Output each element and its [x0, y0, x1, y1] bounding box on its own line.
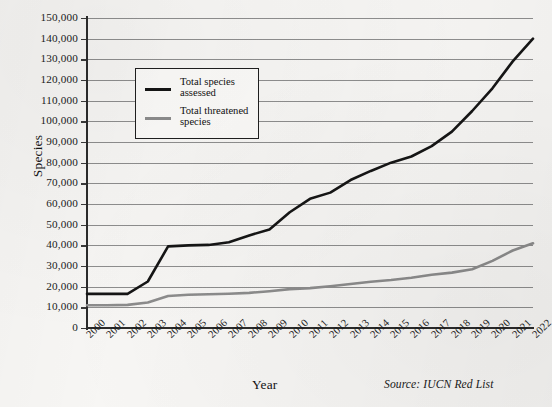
y-tick-mark [81, 307, 86, 308]
y-tick-label: 20,000 [0, 281, 78, 292]
y-tick-mark [81, 225, 86, 226]
legend-swatch-assessed [145, 88, 171, 91]
legend-label-assessed: Total species assessed [180, 76, 256, 99]
gridline [87, 59, 533, 60]
gridline [87, 225, 533, 226]
y-tick-label: 10,000 [0, 301, 78, 312]
y-tick-label: 140,000 [0, 33, 78, 44]
legend-label-threatened: Total threatened species [180, 105, 256, 128]
y-tick-label: 0 [0, 322, 78, 333]
legend-entry-1: Total threatened species [136, 106, 258, 136]
legend-swatch-threatened [145, 117, 171, 120]
legend-entry-0: Total species assessed [136, 77, 258, 107]
y-tick-label: 150,000 [0, 12, 78, 23]
y-tick-mark [81, 287, 86, 288]
y-tick-mark [81, 101, 86, 102]
gridline [87, 245, 533, 246]
chart-page: 150,000140,000130,000120,000110,000100,0… [0, 0, 552, 407]
source-note: Source: IUCN Red List [384, 378, 494, 391]
y-axis-line [86, 16, 88, 330]
y-tick-mark [81, 18, 86, 19]
y-tick-mark [81, 39, 86, 40]
y-tick-label: 50,000 [0, 219, 78, 230]
y-tick-mark [81, 266, 86, 267]
plot-area [87, 18, 533, 328]
y-tick-mark [81, 245, 86, 246]
gridline [87, 204, 533, 205]
gridline [87, 39, 533, 40]
gridline [87, 163, 533, 164]
gridline [87, 142, 533, 143]
gridline [87, 183, 533, 184]
gridline [87, 287, 533, 288]
y-tick-mark [81, 80, 86, 81]
gridline [87, 266, 533, 267]
y-axis-title: Species [30, 96, 46, 216]
gridline [87, 307, 533, 308]
chart-legend: Total species assessed Total threatened … [135, 68, 259, 139]
y-tick-mark [81, 328, 86, 329]
y-tick-mark [81, 142, 86, 143]
gridline [87, 18, 533, 19]
y-tick-mark [81, 183, 86, 184]
y-tick-mark [81, 121, 86, 122]
y-tick-label: 130,000 [0, 53, 78, 64]
y-tick-label: 120,000 [0, 74, 78, 85]
y-tick-label: 30,000 [0, 260, 78, 271]
y-tick-mark [81, 59, 86, 60]
y-tick-label: 40,000 [0, 239, 78, 250]
y-tick-mark [81, 163, 86, 164]
x-tick-label: 2022 [530, 317, 552, 340]
y-tick-mark [81, 204, 86, 205]
x-axis-title: Year [252, 377, 277, 393]
